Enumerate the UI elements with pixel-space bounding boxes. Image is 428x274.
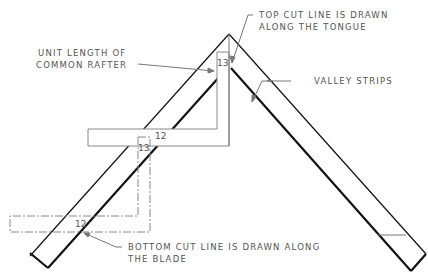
top-cut-label-line1: TOP CUT LINE IS DRAWN [259, 10, 388, 21]
unit-length-label-line2: COMMON RAFTER [36, 60, 127, 71]
rafter-diagram [0, 0, 428, 274]
right-rafter [229, 34, 426, 271]
top-cut-label-line2: ALONG THE TONGUE [259, 22, 367, 33]
tongue-number-top: 13 [217, 58, 228, 68]
unit-length-label-line1: UNIT LENGTH OF [38, 48, 126, 59]
blade-number-dashed: 12 [75, 219, 86, 229]
framing-square-dashed [10, 137, 150, 232]
bottom-cut-label-line2: THE BLADE [128, 254, 187, 265]
tongue-number-dashed: 13 [138, 143, 149, 153]
valley-strips-label: VALLEY STRIPS [314, 76, 393, 87]
bottom-cut-label-line1: BOTTOM CUT LINE IS DRAWN ALONG [128, 242, 320, 253]
blade-number-top: 12 [155, 131, 166, 141]
